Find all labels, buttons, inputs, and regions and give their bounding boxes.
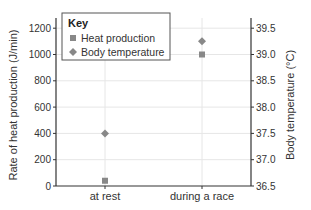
y-tick-label-left: 600 [34, 102, 51, 113]
legend-label: Body temperature [81, 46, 165, 58]
y-tick-label-right: 37.5 [256, 128, 276, 139]
heat-production-point [102, 178, 108, 184]
legend: KeyHeat productionBody temperature [62, 13, 170, 60]
y-tick-label-left: 400 [34, 128, 51, 139]
body-temperature-point [198, 37, 206, 45]
y-tick-label-left: 1000 [29, 49, 52, 60]
y-tick-label-right: 36.5 [256, 181, 276, 192]
legend-title: Key [68, 17, 89, 29]
legend-label: Heat production [81, 32, 155, 44]
y-tick-label-right: 38.0 [256, 102, 276, 113]
y-tick-label-left: 200 [34, 154, 51, 165]
chart: 02004006008001000120036.537.037.538.038.… [0, 0, 311, 210]
y-tick-label-left: 1200 [29, 23, 52, 34]
y-axis-label-left: Rate of heat production (J/min) [7, 29, 19, 180]
y-tick-label-right: 38.5 [256, 75, 276, 86]
y-tick-label-left: 800 [34, 75, 51, 86]
y-axis-label-right: Body temperature (°C) [284, 50, 296, 160]
x-tick-label: during a race [170, 190, 234, 202]
heat-production-point [199, 52, 205, 58]
y-tick-label-left: 0 [45, 181, 51, 192]
y-tick-label-right: 37.0 [256, 154, 276, 165]
y-tick-label-right: 39.5 [256, 23, 276, 34]
legend-square-icon [70, 35, 76, 41]
y-tick-label-right: 39.0 [256, 49, 276, 60]
x-tick-label: at rest [90, 190, 121, 202]
body-temperature-point [101, 129, 109, 137]
